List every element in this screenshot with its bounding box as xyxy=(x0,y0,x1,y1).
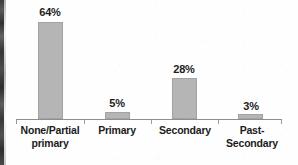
x-axis-line xyxy=(16,119,282,120)
x-axis-label-primary: Primary xyxy=(82,124,152,137)
bar-value-label-4: 3% xyxy=(226,100,276,112)
bar-primary xyxy=(105,112,130,119)
plot-area: 64% 5% 28% 3% None/Partial primary Prima… xyxy=(0,0,298,165)
bar-value-label-3: 28% xyxy=(159,63,209,75)
x-axis-label-past-secondary: Past- Secondary xyxy=(214,124,290,150)
bar-chart: 64% 5% 28% 3% None/Partial primary Prima… xyxy=(0,0,298,165)
bar-secondary xyxy=(172,78,197,119)
bar-value-label-2: 5% xyxy=(92,97,142,109)
bar-value-label-1: 64% xyxy=(25,6,75,18)
x-axis-label-secondary: Secondary xyxy=(148,124,222,137)
bar-none-partial-primary xyxy=(38,22,63,119)
x-axis-label-none-partial-primary: None/Partial primary xyxy=(12,124,88,150)
